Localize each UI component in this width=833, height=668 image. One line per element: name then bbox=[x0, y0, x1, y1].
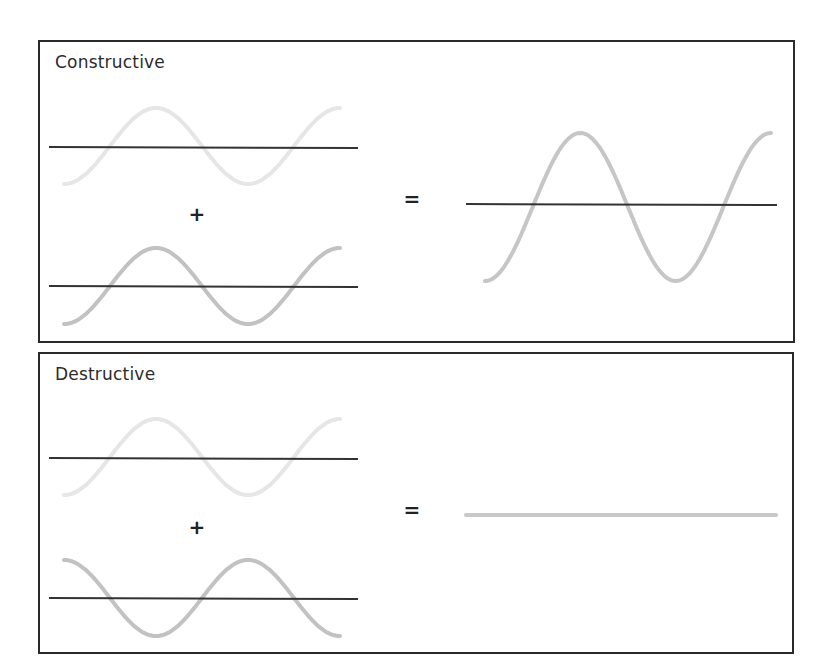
destructive-title: Destructive bbox=[55, 364, 155, 384]
destructive-equals-sign: = bbox=[404, 500, 421, 520]
constructive-title: Constructive bbox=[55, 52, 165, 72]
constructive-plus-sign: + bbox=[189, 204, 206, 224]
destructive-plus-sign: + bbox=[189, 517, 206, 537]
constructive-equals-sign: = bbox=[404, 189, 421, 209]
